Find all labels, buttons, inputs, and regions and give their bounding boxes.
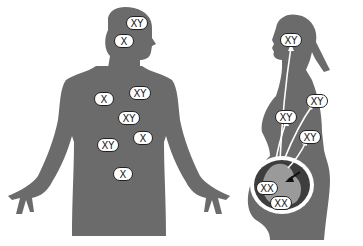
chromosome-label-xx: XX xyxy=(270,196,292,210)
chromosome-label-x: X xyxy=(133,131,153,145)
chromosome-label-xy: XY xyxy=(118,111,140,125)
chromosome-label-x: X xyxy=(114,34,134,48)
chromosome-label-xy: XY xyxy=(299,130,321,144)
chromosome-label-x: X xyxy=(113,167,133,181)
chromosome-label-xy: XY xyxy=(97,138,119,152)
chromosome-label-xy: XY xyxy=(275,110,297,124)
chromosome-label-xx: XX xyxy=(256,181,278,195)
chromosome-label-x: X xyxy=(94,92,114,106)
chromosome-label-xy: XY xyxy=(126,16,148,30)
chromosome-label-xy: XY xyxy=(306,94,328,108)
chromosome-label-xy: XY xyxy=(280,33,302,47)
diagram-canvas xyxy=(0,0,363,246)
chromosome-label-xy: XY xyxy=(129,86,151,100)
